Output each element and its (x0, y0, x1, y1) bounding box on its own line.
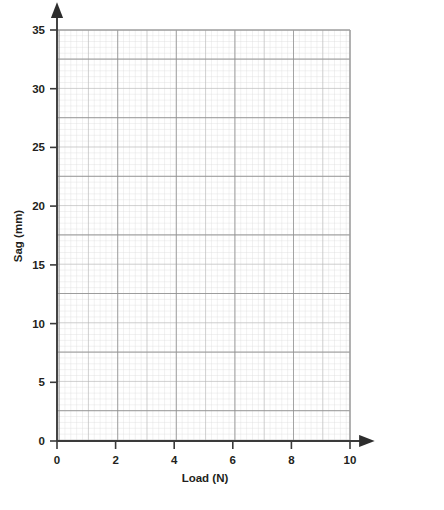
grid-area (57, 30, 350, 441)
y-axis-ticks (50, 30, 57, 441)
y-tick-label-35: 35 (32, 24, 45, 36)
y-axis-title: Sag (mm) (12, 210, 24, 263)
y-axis-tick-labels: 35 30 25 20 15 10 5 0 (32, 24, 45, 447)
y-tick-label-10: 10 (32, 318, 45, 330)
x-tick-label-10: 10 (344, 454, 357, 466)
x-axis-title: Load (N) (182, 472, 229, 484)
x-tick-label-6: 6 (230, 454, 236, 466)
y-tick-label-0: 0 (39, 435, 45, 447)
x-tick-label-0: 0 (54, 454, 60, 466)
y-tick-label-20: 20 (32, 200, 45, 212)
y-tick-label-15: 15 (32, 259, 45, 271)
x-axis-tick-labels: 0 2 4 6 8 10 (54, 454, 357, 466)
grid-major-lines (57, 30, 350, 441)
x-axis-ticks (57, 441, 350, 449)
x-tick-label-4: 4 (171, 454, 178, 466)
y-tick-label-25: 25 (32, 141, 45, 153)
x-tick-label-2: 2 (112, 454, 118, 466)
x-tick-label-8: 8 (288, 454, 295, 466)
graph-paper-chart: 35 30 25 20 15 10 5 0 0 2 4 6 8 10 Loa (0, 0, 444, 510)
y-tick-label-30: 30 (32, 83, 45, 95)
chart-svg: 35 30 25 20 15 10 5 0 0 2 4 6 8 10 Loa (0, 0, 444, 510)
y-tick-label-5: 5 (39, 376, 46, 388)
